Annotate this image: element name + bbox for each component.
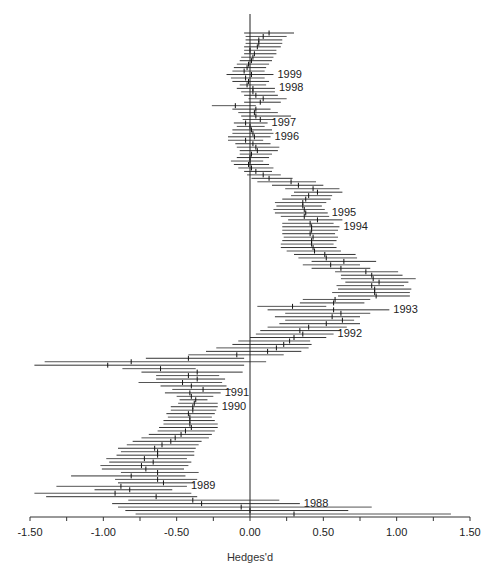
x-axis-title: Hedges'd xyxy=(227,551,273,563)
year-label: 1989 xyxy=(191,480,215,491)
year-label: 1988 xyxy=(304,498,328,509)
year-label: 1991 xyxy=(225,387,249,398)
x-tick-label: 1.00 xyxy=(386,526,407,538)
x-axis xyxy=(30,517,470,521)
x-axis-ticks xyxy=(30,517,470,521)
forest-plot xyxy=(0,0,500,571)
year-label: 1995 xyxy=(332,207,356,218)
x-tick-label: 1.50 xyxy=(459,526,480,538)
x-tick-label: -1.00 xyxy=(91,526,116,538)
x-tick-label: -0.50 xyxy=(164,526,189,538)
ci-rows xyxy=(34,31,451,517)
year-label: 1994 xyxy=(343,221,367,232)
year-label: 1997 xyxy=(272,117,296,128)
year-label: 1999 xyxy=(277,69,301,80)
year-label: 1993 xyxy=(393,304,417,315)
year-label: 1996 xyxy=(275,131,299,142)
x-tick-label: 0.50 xyxy=(313,526,334,538)
year-label: 1992 xyxy=(338,328,362,339)
x-tick-label: -1.50 xyxy=(17,526,42,538)
year-label: 1990 xyxy=(222,401,246,412)
year-label: 1998 xyxy=(279,82,303,93)
x-tick-label: 0.00 xyxy=(239,526,260,538)
